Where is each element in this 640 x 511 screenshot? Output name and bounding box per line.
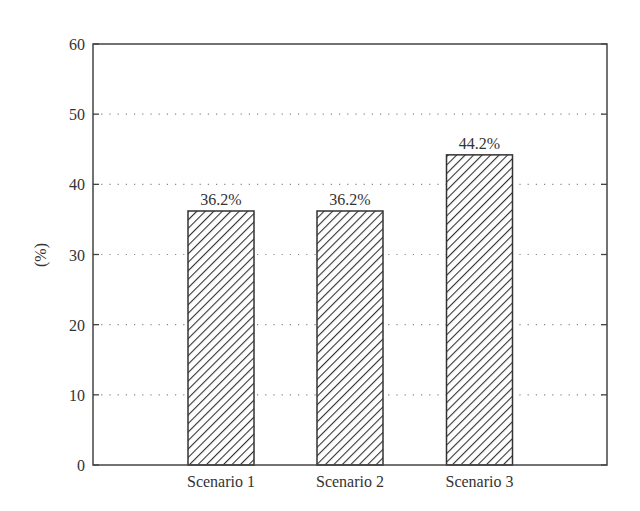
bar-group: 36.2% — [317, 191, 383, 465]
bar-chart: 36.2%36.2%44.2% 0102030405060 Scenario 1… — [0, 0, 640, 511]
y-axis-title: (%) — [32, 243, 50, 267]
y-tick-label: 30 — [69, 247, 85, 264]
bar-value-label: 36.2% — [200, 191, 241, 208]
bar — [447, 155, 513, 465]
y-tick-label: 20 — [69, 317, 85, 334]
x-category-label: Scenario 2 — [316, 473, 384, 490]
y-tick-label: 40 — [69, 176, 85, 193]
x-category-label: Scenario 3 — [446, 473, 514, 490]
y-tick-label: 0 — [77, 457, 85, 474]
bar — [188, 211, 254, 465]
y-tick-label: 60 — [69, 36, 85, 53]
bar — [317, 211, 383, 465]
bars: 36.2%36.2%44.2% — [188, 135, 513, 465]
x-category-label: Scenario 1 — [187, 473, 255, 490]
bar-group: 36.2% — [188, 191, 254, 465]
x-axis-labels: Scenario 1Scenario 2Scenario 3 — [187, 473, 513, 490]
y-tick-label: 10 — [69, 387, 85, 404]
y-tick-label: 50 — [69, 106, 85, 123]
bar-group: 44.2% — [447, 135, 513, 465]
bar-value-label: 36.2% — [329, 191, 370, 208]
bar-value-label: 44.2% — [459, 135, 500, 152]
